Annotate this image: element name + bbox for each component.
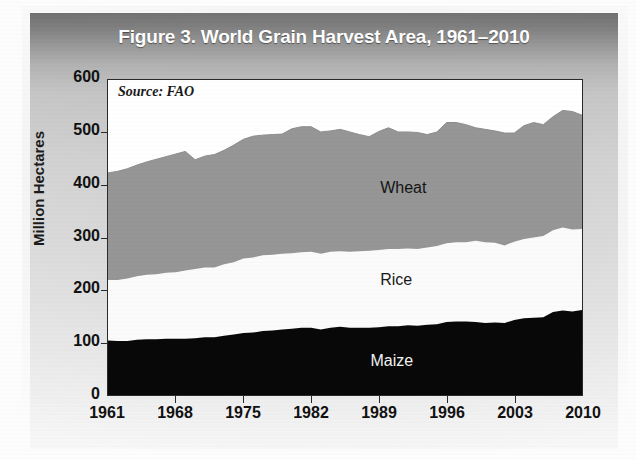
x-tick-mark xyxy=(447,396,448,403)
x-tick-label: 1989 xyxy=(344,404,414,422)
x-tick-mark xyxy=(175,396,176,403)
series-label-wheat: Wheat xyxy=(380,179,426,197)
y-tick-label: 300 xyxy=(44,227,100,245)
x-tick-mark xyxy=(311,396,312,403)
series-label-rice: Rice xyxy=(380,271,412,289)
x-tick-mark xyxy=(243,396,244,403)
y-tick-label: 100 xyxy=(44,332,100,350)
series-label-maize: Maize xyxy=(370,352,413,370)
y-tick-label: 200 xyxy=(44,279,100,297)
x-tick-label: 1968 xyxy=(140,404,210,422)
x-tick-mark xyxy=(515,396,516,403)
stacked-area-svg xyxy=(108,80,582,395)
x-tick-mark xyxy=(379,396,380,403)
x-tick-label: 2003 xyxy=(480,404,550,422)
y-axis-ticks: 0100200300400500600 xyxy=(40,0,100,459)
y-tick-label: 400 xyxy=(44,174,100,192)
y-tick-label: 600 xyxy=(44,68,100,86)
y-tick-label: 500 xyxy=(44,121,100,139)
source-note: Source: FAO xyxy=(118,84,194,100)
y-axis-label: Million Hectares xyxy=(30,94,47,284)
y-tick-label: 0 xyxy=(44,385,100,403)
x-tick-label: 2010 xyxy=(548,404,618,422)
figure-root: Figure 3. World Grain Harvest Area, 1961… xyxy=(0,0,636,459)
x-tick-label: 1961 xyxy=(72,404,142,422)
x-tick-label: 1996 xyxy=(412,404,482,422)
x-tick-label: 1982 xyxy=(276,404,346,422)
figure-title: Figure 3. World Grain Harvest Area, 1961… xyxy=(30,26,618,48)
plot-area xyxy=(107,79,583,396)
x-tick-label: 1975 xyxy=(208,404,278,422)
